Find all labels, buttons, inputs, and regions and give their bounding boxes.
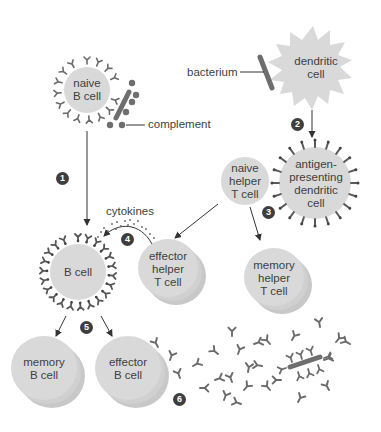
memory-helper-t-label-line1: memory: [246, 259, 302, 272]
effector-helper-t-label-line3: T cell: [140, 276, 196, 289]
apc-label-line1: antigen-: [283, 158, 349, 171]
step-1-badge: 1: [56, 172, 69, 185]
step-3-badge: 3: [262, 206, 275, 219]
naive-helper-t-cell-label: naive helper T cell: [220, 162, 270, 201]
apc-label-line3: dendritic: [283, 184, 349, 197]
dendritic-cell-label: dendritic cell: [288, 55, 344, 81]
arrow-naive-t-to-memory-t: [250, 207, 260, 240]
naive-b-cell-label-line1: naive: [62, 77, 112, 90]
bacterium: [240, 57, 272, 88]
memory-helper-t-label-line2: helper: [246, 272, 302, 285]
step-2-badge: 2: [291, 118, 304, 131]
dendritic-cell-label-line1: dendritic: [288, 55, 344, 68]
naive-helper-t-label-line3: T cell: [220, 188, 270, 201]
arrow-naive-t-to-effector-t: [175, 204, 218, 238]
antibody-bound-bacterium: [278, 347, 333, 381]
apc-label-line4: cell: [283, 197, 349, 210]
b-cell-label: B cell: [53, 266, 103, 279]
memory-b-cell-label-line1: memory: [16, 356, 72, 369]
memory-b-cell-label: memory B cell: [16, 356, 72, 382]
step-4-badge: 4: [121, 233, 134, 246]
effector-b-cell-label-line2: B cell: [100, 369, 156, 382]
apc-label-line2: presenting: [283, 171, 349, 184]
memory-helper-t-label-line3: T cell: [246, 285, 302, 298]
dendritic-cell-label-line2: cell: [288, 68, 344, 81]
naive-helper-t-label-line2: helper: [220, 175, 270, 188]
apc-label: antigen- presenting dendritic cell: [283, 158, 349, 210]
effector-b-cell-label: effector B cell: [100, 356, 156, 382]
effector-helper-t-label-line2: helper: [140, 263, 196, 276]
memory-b-cell-label-line2: B cell: [16, 369, 72, 382]
naive-b-cell-label: naive B cell: [62, 77, 112, 103]
immune-response-diagram: naive B cell complement bacterium dendri…: [0, 0, 381, 432]
naive-helper-t-label-line1: naive: [220, 162, 270, 175]
step-6-badge: 6: [173, 393, 186, 406]
effector-b-cell-label-line1: effector: [100, 356, 156, 369]
effector-helper-t-label-line1: effector: [140, 250, 196, 263]
bacterium-label: bacterium: [187, 66, 238, 79]
naive-b-cell-label-line2: B cell: [62, 90, 112, 103]
arrow-b-cell-to-effector-b: [101, 316, 112, 336]
effector-helper-t-cell-label: effector helper T cell: [140, 250, 196, 289]
cytokines-label: cytokines: [106, 205, 154, 218]
step-5-badge: 5: [80, 321, 93, 334]
memory-helper-t-cell-label: memory helper T cell: [246, 259, 302, 298]
complement-label: complement: [148, 118, 211, 131]
arrow-b-cell-to-memory-b: [56, 316, 66, 336]
